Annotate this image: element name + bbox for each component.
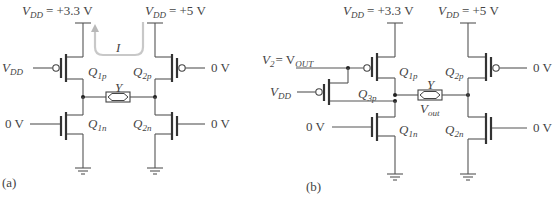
ground-icon: [460, 174, 476, 180]
supply-left-label: VDD= +3.3 V: [22, 3, 93, 20]
ground-icon: [387, 174, 403, 180]
q1p-label: Q1p: [88, 64, 107, 81]
q2p-input-label: 0 V: [211, 60, 231, 75]
q1n-input-label-b: 0 V: [306, 119, 326, 134]
circuit-diagram: VDD= +3.3 V VDD= +5 V I VDD Q1p 0 V Q2p: [0, 0, 556, 198]
q3p-label: Q3p: [358, 86, 377, 103]
q2p-input-label-b: 0 V: [533, 60, 553, 75]
q2n-input-label-b: 0 V: [533, 120, 553, 135]
panel-b: VDD= +3.3 V VDD= +5 V V2= VOUT Q1p VDD Q…: [262, 3, 553, 194]
supply-left-label-b: VDD= +3.3 V: [343, 3, 414, 20]
vdd-input-label-b: VDD: [270, 84, 291, 101]
q1n-label: Q1n: [88, 116, 107, 133]
q2n-label-b: Q2n: [445, 122, 464, 139]
panel-b-caption: (b): [306, 179, 321, 194]
q2p-label-b: Q2p: [445, 64, 464, 81]
q2n-label: Q2n: [133, 116, 152, 133]
supply-right-label-b: VDD= +5 V: [438, 3, 499, 20]
ground-icon: [147, 168, 163, 174]
current-label: I: [115, 40, 121, 55]
q1p-label-b: Q1p: [399, 64, 418, 81]
q1p-input-label: VDD: [2, 60, 23, 77]
q1n-input-label: 0 V: [5, 116, 25, 131]
vout-label: Vout: [420, 101, 440, 118]
q2p-label: Q2p: [133, 64, 152, 81]
panel-a: VDD= +3.3 V VDD= +5 V I VDD Q1p 0 V Q2p: [2, 3, 231, 190]
q1n-label-b: Q1n: [399, 122, 418, 139]
ground-icon: [75, 168, 91, 174]
panel-a-caption: (a): [2, 175, 16, 190]
v2-input-label: V2= VOUT: [262, 52, 314, 69]
q2n-input-label: 0 V: [211, 116, 231, 131]
arrow-head-icon: [91, 24, 99, 32]
supply-right-label: VDD= +5 V: [145, 3, 206, 20]
